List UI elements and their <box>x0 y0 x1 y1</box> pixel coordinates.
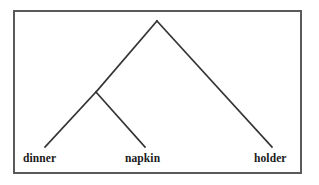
syntax-tree-figure: dinner napkin holder <box>0 0 319 185</box>
figure-border <box>13 10 302 174</box>
leaf-label-dinner: dinner <box>23 152 56 165</box>
leaf-label-napkin: napkin <box>125 152 160 165</box>
leaf-label-holder: holder <box>254 152 287 165</box>
